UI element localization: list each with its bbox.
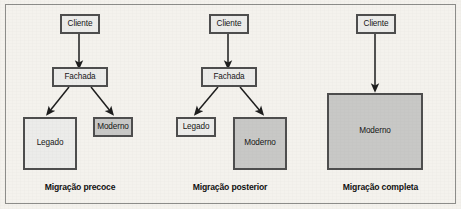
node-cliente[interactable]: Cliente <box>60 14 100 34</box>
node-fachada-label: Fachada <box>64 73 95 82</box>
node-moderno[interactable]: Moderno <box>327 93 423 170</box>
node-moderno[interactable]: Moderno <box>93 117 133 137</box>
node-moderno-label: Moderno <box>244 139 276 148</box>
migration-strategies-figure: Cliente Fachada Legado Moderno Migração … <box>0 0 461 209</box>
node-fachada-label: Fachada <box>213 73 244 82</box>
panel-2-caption: Migração posterior <box>155 182 305 192</box>
node-legado[interactable]: Legado <box>23 117 77 170</box>
panel-migracao-completa: Cliente Moderno Migração completa <box>305 4 456 204</box>
node-moderno-label: Moderno <box>97 123 129 132</box>
panel-migracao-posterior: Cliente Fachada Legado Moderno Migração … <box>155 4 305 204</box>
panel-1-connectors <box>5 4 155 204</box>
node-cliente[interactable]: Cliente <box>356 14 396 34</box>
node-cliente-label: Cliente <box>217 20 242 29</box>
node-legado-label: Legado <box>37 139 64 148</box>
panel-3-caption: Migração completa <box>305 182 456 192</box>
node-legado-label: Legado <box>183 123 210 132</box>
node-cliente[interactable]: Cliente <box>209 14 249 34</box>
node-moderno[interactable]: Moderno <box>233 117 287 170</box>
node-legado[interactable]: Legado <box>176 117 216 137</box>
node-cliente-label: Cliente <box>68 20 93 29</box>
panel-2-connectors <box>155 4 305 204</box>
panel-migracao-precoce: Cliente Fachada Legado Moderno Migração … <box>5 4 155 204</box>
node-fachada[interactable]: Fachada <box>52 67 108 87</box>
node-cliente-label: Cliente <box>364 20 389 29</box>
node-moderno-label: Moderno <box>359 127 391 136</box>
panel-1-caption: Migração precoce <box>5 182 155 192</box>
node-fachada[interactable]: Fachada <box>201 67 257 87</box>
